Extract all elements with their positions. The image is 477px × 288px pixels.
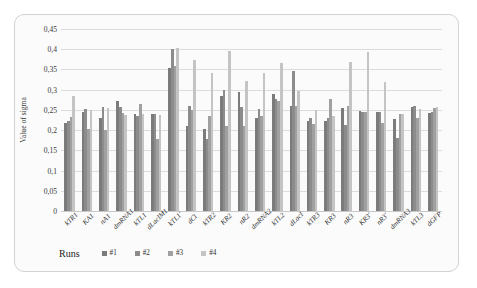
- bar: [367, 52, 370, 211]
- bar: [107, 108, 110, 211]
- x-axis-label-text: nA1: [99, 212, 113, 226]
- y-axis-tick-label: 0,05: [44, 186, 57, 195]
- x-axis-label: kTR3: [303, 213, 320, 259]
- legend-label: #3: [176, 249, 183, 257]
- bar-group: [355, 29, 372, 211]
- legend-item[interactable]: #3: [168, 249, 183, 257]
- bar-group: [286, 29, 303, 211]
- bar-group: [251, 29, 268, 211]
- legend-swatch: [135, 251, 140, 256]
- legend-swatch: [102, 251, 107, 256]
- x-axis-label: KR3: [321, 213, 338, 259]
- bar-group: [269, 29, 286, 211]
- x-axis-label-text: dGFP: [426, 210, 444, 228]
- x-axis-label-text: KA1: [81, 212, 96, 227]
- legend-label: #2: [143, 249, 150, 257]
- bar-group: [182, 29, 199, 211]
- bar: [211, 73, 214, 211]
- x-axis-label: dLacI: [286, 213, 303, 259]
- x-axis-label: nR2: [234, 213, 251, 259]
- bar: [159, 115, 162, 211]
- bar-group: [165, 29, 182, 211]
- bar-group: [61, 29, 78, 211]
- bar-groups: [61, 29, 442, 211]
- bar: [297, 91, 300, 211]
- bar: [315, 110, 318, 211]
- bar: [349, 62, 352, 211]
- legend-swatch: [201, 251, 206, 256]
- legend-item[interactable]: #2: [135, 249, 150, 257]
- legend-label: #1: [110, 249, 117, 257]
- x-axis-label: dGFP: [425, 213, 442, 259]
- bar-group: [200, 29, 217, 211]
- y-axis-tick-label: 0,4: [48, 45, 58, 54]
- bar-group: [338, 29, 355, 211]
- bar-group: [390, 29, 407, 211]
- y-axis-tick-label: 0,25: [44, 105, 57, 114]
- bar: [436, 107, 439, 211]
- bar-group: [407, 29, 424, 211]
- bar: [245, 81, 248, 211]
- x-axis-label: nR3: [338, 213, 355, 259]
- bar-group: [321, 29, 338, 211]
- bar: [228, 51, 231, 211]
- bar: [384, 82, 387, 211]
- x-axis-label-text: KR3': [357, 211, 373, 227]
- y-axis-tick-label: 0,15: [44, 146, 57, 155]
- bar: [124, 115, 127, 211]
- bar-group: [113, 29, 130, 211]
- x-axis-label-text: kTL1': [166, 211, 183, 228]
- y-axis-tick-label: 0,45: [44, 25, 57, 34]
- bar-group: [130, 29, 147, 211]
- y-axis-label: Value of sigma: [19, 97, 28, 143]
- x-axis-label-text: dLacI: [287, 210, 305, 228]
- bar: [90, 110, 93, 211]
- x-axis-label: dmRNA2: [251, 213, 268, 259]
- bar: [280, 63, 283, 211]
- chart-legend: Runs #1#2#3#4: [59, 243, 234, 263]
- bar: [193, 60, 196, 211]
- bar: [401, 114, 404, 211]
- y-axis-tick-label: 0: [53, 207, 57, 216]
- bar-group: [96, 29, 113, 211]
- bar: [263, 73, 266, 211]
- legend-item[interactable]: #1: [102, 249, 117, 257]
- x-axis-label-text: nR3: [341, 212, 355, 226]
- x-axis-label-text: kTL2: [271, 211, 287, 227]
- bar: [72, 96, 75, 211]
- x-axis-label: dmRNA3: [390, 213, 407, 259]
- bar-group: [148, 29, 165, 211]
- chart-frame: Value of sigma 0,450,40,350,30,250,20,15…: [14, 14, 459, 272]
- plot-area: Value of sigma 0,450,40,350,30,250,20,15…: [61, 29, 442, 211]
- x-axis-label-text: KR3: [323, 212, 338, 227]
- x-axis-label-text: kTR3: [305, 211, 321, 227]
- bar-group: [303, 29, 320, 211]
- bar-group: [425, 29, 442, 211]
- legend-swatch: [168, 251, 173, 256]
- bar-group: [373, 29, 390, 211]
- x-axis-label: KR3': [355, 213, 372, 259]
- x-axis-label-text: KR2: [220, 212, 235, 227]
- y-axis-tick-label: 0,1: [48, 166, 58, 175]
- y-axis-tick-label: 0,2: [48, 126, 58, 135]
- x-axis-label-text: kTL3: [409, 211, 425, 227]
- y-axis-tick-label: 0,35: [44, 65, 57, 74]
- bar-group: [217, 29, 234, 211]
- x-axis-label-text: kTR2: [201, 211, 217, 227]
- y-axis-tick-label: 0,3: [48, 85, 58, 94]
- bar: [142, 114, 145, 211]
- legend-items: #1#2#3#4: [102, 249, 235, 257]
- bar: [419, 109, 422, 211]
- legend-item[interactable]: #4: [201, 249, 216, 257]
- legend-label: #4: [209, 249, 216, 257]
- legend-title: Runs: [59, 248, 80, 259]
- bar: [176, 48, 179, 211]
- bar-group: [78, 29, 95, 211]
- x-axis-label: kTL2: [269, 213, 286, 259]
- bar-group: [234, 29, 251, 211]
- bar: [332, 116, 335, 211]
- x-axis-label: nR3': [373, 213, 390, 259]
- x-axis-label-text: dCl: [186, 213, 199, 226]
- x-axis-label-text: kTR1: [63, 211, 79, 227]
- x-axis-label: kTL3: [407, 213, 424, 259]
